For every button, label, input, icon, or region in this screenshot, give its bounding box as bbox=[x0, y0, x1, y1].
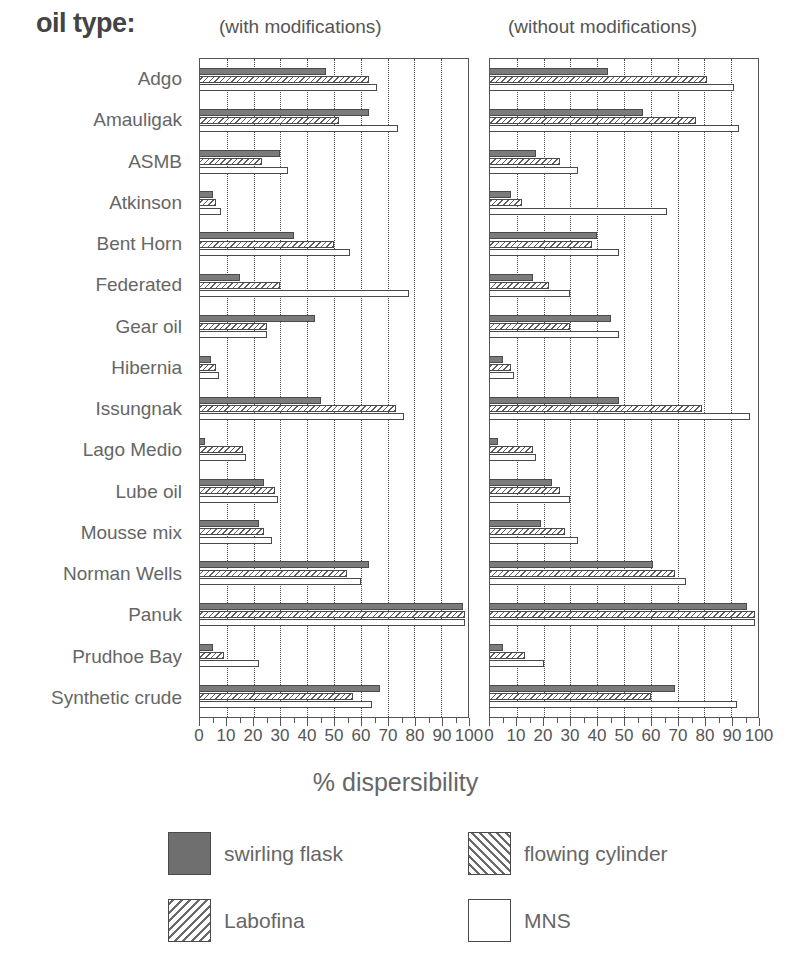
axis-tick bbox=[388, 718, 389, 726]
bar bbox=[490, 438, 498, 445]
axis-tick bbox=[240, 718, 241, 723]
oil-type-label: oil type: bbox=[36, 8, 135, 39]
axis-tick-label: 70 bbox=[379, 726, 398, 746]
axis-tick-label: 20 bbox=[244, 726, 263, 746]
category-label: Amauligak bbox=[0, 99, 188, 140]
axis-tick bbox=[469, 718, 470, 726]
bar bbox=[490, 454, 536, 461]
bar bbox=[490, 158, 560, 165]
axis-tick bbox=[543, 718, 544, 726]
bar bbox=[490, 125, 739, 132]
plot-panel-with-modifications bbox=[199, 58, 469, 718]
axis-tick-label: 40 bbox=[588, 726, 607, 746]
bar bbox=[200, 693, 353, 700]
legend-item[interactable]: flowing cylinder bbox=[468, 832, 728, 875]
bar-group bbox=[200, 265, 468, 306]
bar bbox=[490, 611, 755, 618]
bar bbox=[200, 619, 465, 626]
axis-tick-label: 30 bbox=[561, 726, 580, 746]
bar bbox=[200, 167, 288, 174]
bar bbox=[200, 487, 275, 494]
bar-group bbox=[490, 141, 758, 182]
bar-group bbox=[490, 100, 758, 141]
legend-item[interactable]: swirling flask bbox=[168, 832, 468, 875]
category-label: Gear oil bbox=[0, 306, 188, 347]
axis-tick bbox=[213, 718, 214, 723]
panel-title-left: (with modifications) bbox=[219, 16, 382, 38]
bar bbox=[200, 496, 278, 503]
legend-item[interactable]: Labofina bbox=[168, 899, 468, 942]
bar bbox=[200, 454, 246, 461]
bar bbox=[200, 405, 396, 412]
bar-group bbox=[200, 141, 468, 182]
bar bbox=[200, 282, 280, 289]
chart-page: oil type: (with modifications) (without … bbox=[0, 0, 791, 973]
bar-group bbox=[200, 224, 468, 265]
axis-tick bbox=[503, 718, 504, 723]
axis-tick bbox=[516, 718, 517, 726]
category-label: Panuk bbox=[0, 594, 188, 635]
axis-tick bbox=[361, 718, 362, 726]
axis-tick-label: 100 bbox=[455, 726, 483, 746]
category-label: ASMB bbox=[0, 141, 188, 182]
bar-group bbox=[490, 265, 758, 306]
bar bbox=[490, 109, 643, 116]
bar bbox=[200, 611, 465, 618]
bar bbox=[200, 125, 398, 132]
bar bbox=[490, 487, 560, 494]
bar bbox=[200, 158, 262, 165]
axis-tick-label: 10 bbox=[217, 726, 236, 746]
axis-tick bbox=[321, 718, 322, 723]
axis-tick bbox=[638, 718, 639, 723]
bar bbox=[490, 446, 533, 453]
bar-group bbox=[490, 224, 758, 265]
bar bbox=[200, 364, 216, 371]
bar-group bbox=[200, 306, 468, 347]
chart-legend: swirling flaskflowing cylinderLabofinaMN… bbox=[168, 832, 728, 942]
bar bbox=[200, 76, 369, 83]
bar-group bbox=[200, 470, 468, 511]
bar bbox=[200, 438, 205, 445]
category-label: Hibernia bbox=[0, 347, 188, 388]
category-axis-labels: AdgoAmauligakASMBAtkinsonBent HornFedera… bbox=[0, 58, 188, 718]
bar bbox=[200, 652, 224, 659]
bar bbox=[200, 68, 326, 75]
legend-item[interactable]: MNS bbox=[468, 899, 728, 942]
axis-tick bbox=[456, 718, 457, 723]
bar bbox=[200, 397, 321, 404]
bar bbox=[490, 652, 525, 659]
axis-tick-label: 80 bbox=[696, 726, 715, 746]
bar-group bbox=[200, 635, 468, 676]
axis-tick bbox=[597, 718, 598, 726]
x-axis-title: % dispersibility bbox=[0, 768, 791, 797]
bar bbox=[490, 537, 578, 544]
axis-tick bbox=[375, 718, 376, 723]
bar bbox=[200, 290, 409, 297]
axis-tick-label: 40 bbox=[298, 726, 317, 746]
bar bbox=[490, 356, 503, 363]
bar-group bbox=[490, 347, 758, 388]
legend-label: swirling flask bbox=[224, 842, 343, 866]
bar bbox=[200, 528, 264, 535]
bar bbox=[200, 331, 267, 338]
bar bbox=[490, 364, 511, 371]
bar bbox=[490, 84, 734, 91]
bar bbox=[490, 578, 686, 585]
bar bbox=[490, 496, 570, 503]
bar bbox=[490, 693, 651, 700]
axis-tick bbox=[624, 718, 625, 726]
bar bbox=[200, 685, 380, 692]
bar bbox=[490, 372, 514, 379]
axis-tick bbox=[489, 718, 490, 726]
bar bbox=[200, 323, 267, 330]
axis-tick bbox=[429, 718, 430, 723]
axis-tick bbox=[280, 718, 281, 726]
bar-group bbox=[200, 182, 468, 223]
axis-tick bbox=[226, 718, 227, 726]
bar-group bbox=[200, 59, 468, 100]
bar-group bbox=[200, 511, 468, 552]
axis-tick bbox=[746, 718, 747, 723]
bar bbox=[200, 232, 294, 239]
plot-panel-without-modifications bbox=[489, 58, 759, 718]
bar bbox=[490, 644, 503, 651]
